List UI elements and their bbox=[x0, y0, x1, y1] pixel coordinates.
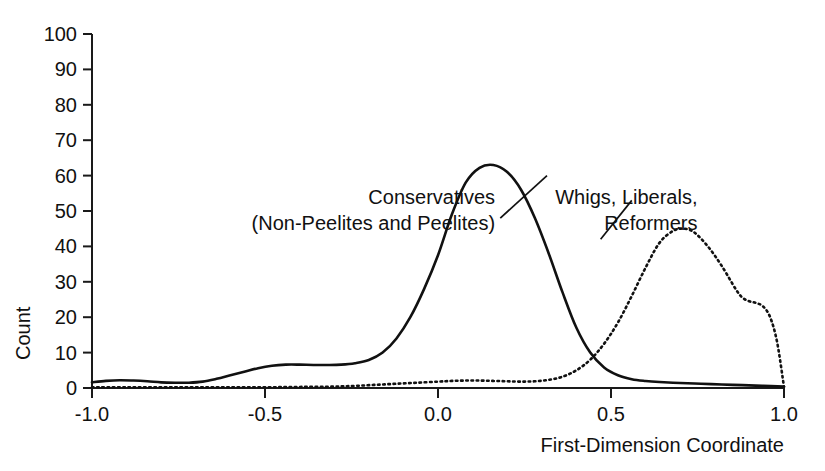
plot-background bbox=[0, 0, 825, 471]
annotation-line: Conservatives bbox=[368, 186, 495, 208]
x-tick-label: -1.0 bbox=[75, 403, 109, 425]
y-axis-title: Count bbox=[12, 306, 34, 360]
density-plot: 0102030405060708090100 -1.0-0.50.00.51.0… bbox=[0, 0, 825, 471]
y-tick-label: 20 bbox=[55, 306, 77, 328]
y-tick-label: 10 bbox=[55, 342, 77, 364]
y-tick-label: 50 bbox=[55, 200, 77, 222]
annotation-line: Reformers bbox=[604, 212, 697, 234]
x-axis-title: First-Dimension Coordinate bbox=[541, 434, 784, 456]
y-tick-label: 0 bbox=[66, 377, 77, 399]
y-tick-label: 40 bbox=[55, 235, 77, 257]
x-tick-label: 1.0 bbox=[770, 403, 798, 425]
annotation-line: Whigs, Liberals, bbox=[555, 186, 697, 208]
y-tick-label: 70 bbox=[55, 129, 77, 151]
y-tick-label: 80 bbox=[55, 94, 77, 116]
annotation-line: (Non-Peelites and Peelites) bbox=[252, 212, 495, 234]
x-tick-label: -0.5 bbox=[248, 403, 282, 425]
x-tick-label: 0.0 bbox=[424, 403, 452, 425]
y-tick-label: 90 bbox=[55, 58, 77, 80]
y-tick-label: 100 bbox=[44, 23, 77, 45]
chart-figure: 0102030405060708090100 -1.0-0.50.00.51.0… bbox=[0, 0, 825, 471]
y-tick-label: 30 bbox=[55, 271, 77, 293]
y-tick-label: 60 bbox=[55, 165, 77, 187]
x-tick-label: 0.5 bbox=[597, 403, 625, 425]
